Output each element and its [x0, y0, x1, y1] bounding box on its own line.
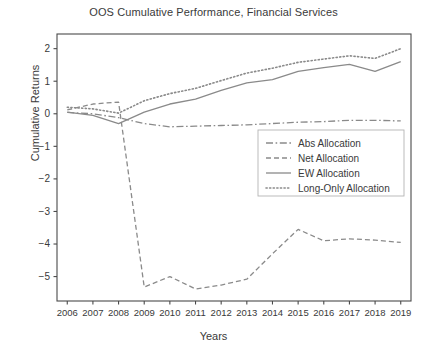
x-tick-label: 2010 [159, 307, 180, 318]
legend-label-0: Abs Allocation [298, 138, 361, 149]
x-tick-label: 2006 [57, 307, 78, 318]
x-tick-label: 2011 [185, 307, 205, 318]
x-tick-label: 2018 [365, 307, 386, 318]
y-tick-label: −1 [39, 141, 51, 152]
x-tick-label: 2007 [82, 307, 103, 318]
legend-label-1: Net Allocation [298, 153, 359, 164]
x-tick-label: 2008 [108, 307, 129, 318]
y-tick-label: 0 [44, 108, 50, 119]
series-line-3 [67, 49, 400, 113]
x-tick-label: 2016 [313, 307, 334, 318]
series-line-2 [67, 62, 400, 124]
x-tick-label: 2012 [211, 307, 232, 318]
y-tick-label: 1 [44, 76, 50, 87]
plot-area: 210−1−2−3−4−5200620072008200920102011201… [0, 0, 427, 352]
legend-label-3: Long-Only Allocation [298, 183, 390, 194]
y-tick-label: −2 [39, 173, 51, 184]
x-tick-label: 2019 [390, 307, 411, 318]
x-tick-label: 2009 [134, 307, 155, 318]
y-tick-label: 2 [44, 43, 50, 54]
x-tick-label: 2013 [236, 307, 257, 318]
chart-figure: OOS Cumulative Performance, Financial Se… [0, 0, 427, 352]
x-tick-label: 2014 [262, 307, 283, 318]
legend-label-2: EW Allocation [298, 168, 360, 179]
y-tick-label: −5 [39, 271, 51, 282]
x-tick-label: 2015 [288, 307, 309, 318]
y-tick-label: −3 [39, 206, 51, 217]
x-tick-label: 2017 [339, 307, 360, 318]
series-line-0 [67, 112, 400, 126]
y-tick-label: −4 [39, 238, 51, 249]
